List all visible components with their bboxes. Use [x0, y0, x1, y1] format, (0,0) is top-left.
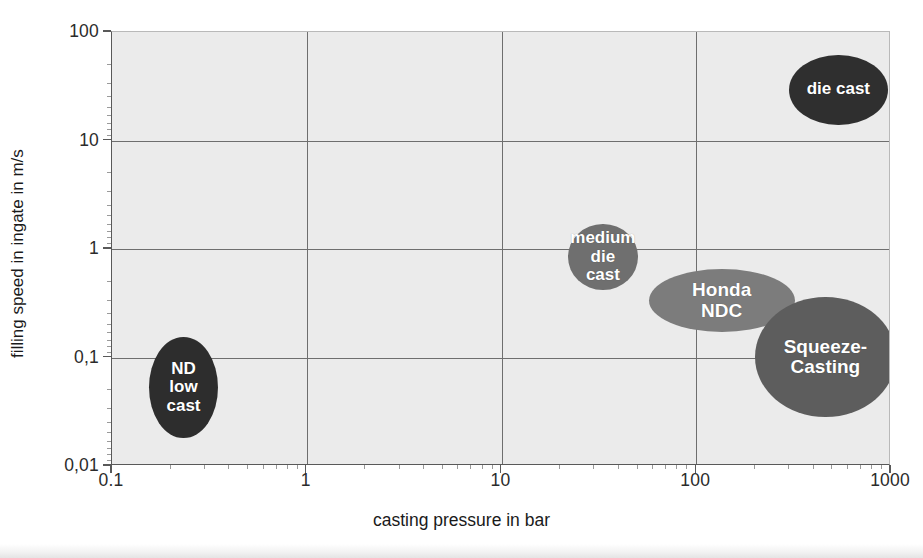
bubble-label-line: Casting	[791, 357, 861, 378]
y-axis-minor-tick	[107, 448, 111, 449]
x-axis-minor-tick	[881, 465, 882, 469]
gridline-vertical	[696, 32, 697, 464]
x-axis-minor-tick	[399, 465, 400, 469]
x-axis-minor-tick	[813, 465, 814, 469]
x-axis-minor-tick	[492, 465, 493, 469]
bubble-squeeze-casting: Squeeze-Casting	[755, 297, 890, 417]
x-axis-label: casting pressure in bar	[0, 510, 923, 531]
x-axis-minor-tick	[263, 465, 264, 469]
y-axis-minor-tick	[107, 346, 111, 347]
x-axis-minor-tick	[287, 465, 288, 469]
y-axis-minor-tick	[107, 191, 111, 192]
y-axis-minor-tick	[107, 389, 111, 390]
y-axis-minor-tick	[107, 96, 111, 97]
x-axis-minor-tick	[618, 465, 619, 469]
y-axis-minor-tick	[107, 83, 111, 84]
y-axis-minor-tick	[107, 324, 111, 325]
chart-figure: NDlowcastmediumdiecastdie castHondaNDCSq…	[0, 0, 923, 558]
bubble-label-line: medium	[570, 229, 635, 247]
bubble-label-line: Honda	[692, 280, 751, 301]
x-axis-tick-label: 100	[680, 470, 710, 491]
y-axis-minor-tick	[107, 352, 111, 353]
x-axis-minor-tick	[831, 465, 832, 469]
y-axis-minor-tick	[107, 460, 111, 461]
y-axis-minor-tick	[107, 231, 111, 232]
x-axis-minor-tick	[637, 465, 638, 469]
y-axis-minor-tick	[107, 224, 111, 225]
y-axis-tick-label: 0,01	[14, 455, 99, 476]
bubble-label-line: ND	[171, 360, 196, 378]
y-axis-minor-tick	[107, 300, 111, 301]
x-axis-minor-tick	[423, 465, 424, 469]
bubble-label-line: die	[591, 248, 616, 266]
x-axis-minor-tick	[442, 465, 443, 469]
y-axis-tick-label: 100	[14, 21, 99, 42]
y-axis-minor-tick	[107, 422, 111, 423]
x-axis-minor-tick	[470, 465, 471, 469]
x-axis-minor-tick	[204, 465, 205, 469]
y-axis-tick	[103, 30, 111, 31]
y-axis-tick	[103, 247, 111, 248]
bubble-label-line: low	[169, 378, 197, 396]
gridline-horizontal	[112, 249, 889, 250]
y-axis-minor-tick	[107, 332, 111, 333]
x-axis-minor-tick	[247, 465, 248, 469]
y-axis-minor-tick	[107, 340, 111, 341]
bubble-label-line: die cast	[807, 80, 870, 98]
x-axis-minor-tick	[364, 465, 365, 469]
x-axis-minor-tick	[686, 465, 687, 469]
y-axis-minor-tick	[107, 172, 111, 173]
y-axis-minor-tick	[107, 64, 111, 65]
x-axis-minor-tick	[228, 465, 229, 469]
x-axis-minor-tick	[788, 465, 789, 469]
y-axis-minor-tick	[107, 237, 111, 238]
x-axis-minor-tick	[559, 465, 560, 469]
x-axis-minor-tick	[482, 465, 483, 469]
y-axis-minor-tick	[107, 215, 111, 216]
gridline-vertical	[307, 32, 308, 464]
x-axis-tick-label: 10	[491, 470, 511, 491]
y-axis-minor-tick	[107, 313, 111, 314]
x-axis-minor-tick	[665, 465, 666, 469]
bubble-label-line: Squeeze-	[784, 337, 867, 358]
y-axis-label: filling speed in ingate in m/s	[8, 158, 28, 358]
y-axis-minor-tick	[107, 441, 111, 442]
x-axis-minor-tick	[871, 465, 872, 469]
x-axis-minor-tick	[593, 465, 594, 469]
y-axis-tick	[103, 464, 111, 465]
x-axis-minor-tick	[457, 465, 458, 469]
x-axis-minor-tick	[297, 465, 298, 469]
y-axis-minor-tick	[107, 432, 111, 433]
y-axis-minor-tick	[107, 107, 111, 108]
scan-artifact	[0, 544, 923, 558]
y-axis-minor-tick	[107, 454, 111, 455]
y-axis-tick	[103, 356, 111, 357]
gridline-horizontal	[112, 141, 889, 142]
y-axis-minor-tick	[107, 243, 111, 244]
x-axis-minor-tick	[847, 465, 848, 469]
x-axis-minor-tick	[860, 465, 861, 469]
x-axis-minor-tick	[676, 465, 677, 469]
x-axis-tick-label: 1	[301, 470, 311, 491]
y-axis-minor-tick	[107, 205, 111, 206]
y-axis-minor-tick	[107, 408, 111, 409]
bubble-label-line: cast	[166, 397, 200, 415]
x-axis-minor-tick	[652, 465, 653, 469]
x-axis-minor-tick	[754, 465, 755, 469]
x-axis-tick-label: 1000	[870, 470, 910, 491]
bubble-medium-die-cast: mediumdiecast	[568, 224, 637, 290]
bubble-nd-low-cast: NDlowcast	[149, 337, 218, 438]
bubble-label-line: NDC	[701, 301, 742, 322]
y-axis-minor-tick	[107, 281, 111, 282]
bubble-label-line: cast	[586, 266, 620, 284]
y-axis-minor-tick	[107, 123, 111, 124]
x-axis-minor-tick	[276, 465, 277, 469]
gridline-vertical	[502, 32, 503, 464]
y-axis-minor-tick	[107, 129, 111, 130]
bubble-die-cast: die cast	[789, 55, 887, 125]
y-axis-minor-tick	[107, 135, 111, 136]
y-axis-minor-tick	[107, 115, 111, 116]
y-axis-tick-label: 10	[14, 129, 99, 150]
plot-area: NDlowcastmediumdiecastdie castHondaNDCSq…	[111, 31, 890, 465]
x-axis-tick-label: 0.1	[99, 470, 124, 491]
